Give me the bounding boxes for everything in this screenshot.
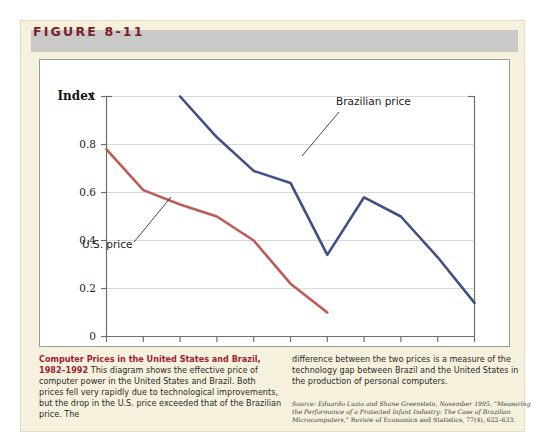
y-tick-label: 1	[89, 90, 96, 102]
figure-page: FIGURE 8-11	[0, 0, 541, 445]
caption-body-right: difference between the two prices is a m…	[292, 354, 518, 386]
source-citation-rest: Review of Economics and Statistics, 77(4…	[349, 416, 516, 423]
y-tick-label: 0.6	[79, 186, 96, 198]
caption-source: Source: Eduardo Luzio and Shane Greenste…	[292, 400, 535, 424]
line-chart: Index 1 0.8 0.6 0.4 0.2 0 1982 1983 1984…	[40, 60, 509, 346]
y-tick-label: 0	[89, 330, 96, 342]
caption-right-column: difference between the two prices is a m…	[292, 354, 532, 387]
figure-number-label: FIGURE 8-11	[33, 24, 145, 39]
y-tick-label: 0.8	[79, 138, 96, 150]
caption-left-column: Computer Prices in the United States and…	[39, 354, 282, 419]
source-prefix: Source:	[292, 400, 316, 407]
figure-panel: FIGURE 8-11	[20, 20, 525, 432]
y-tick-label: 0.2	[79, 282, 96, 294]
figure-caption: Computer Prices in the United States and…	[39, 354, 526, 426]
chart-panel: Index 1 0.8 0.6 0.4 0.2 0 1982 1983 1984…	[39, 59, 510, 347]
plot-background	[40, 60, 509, 346]
annotation-us-price: U.S. price	[82, 238, 133, 250]
annotation-brazilian-price: Brazilian price	[336, 95, 411, 107]
